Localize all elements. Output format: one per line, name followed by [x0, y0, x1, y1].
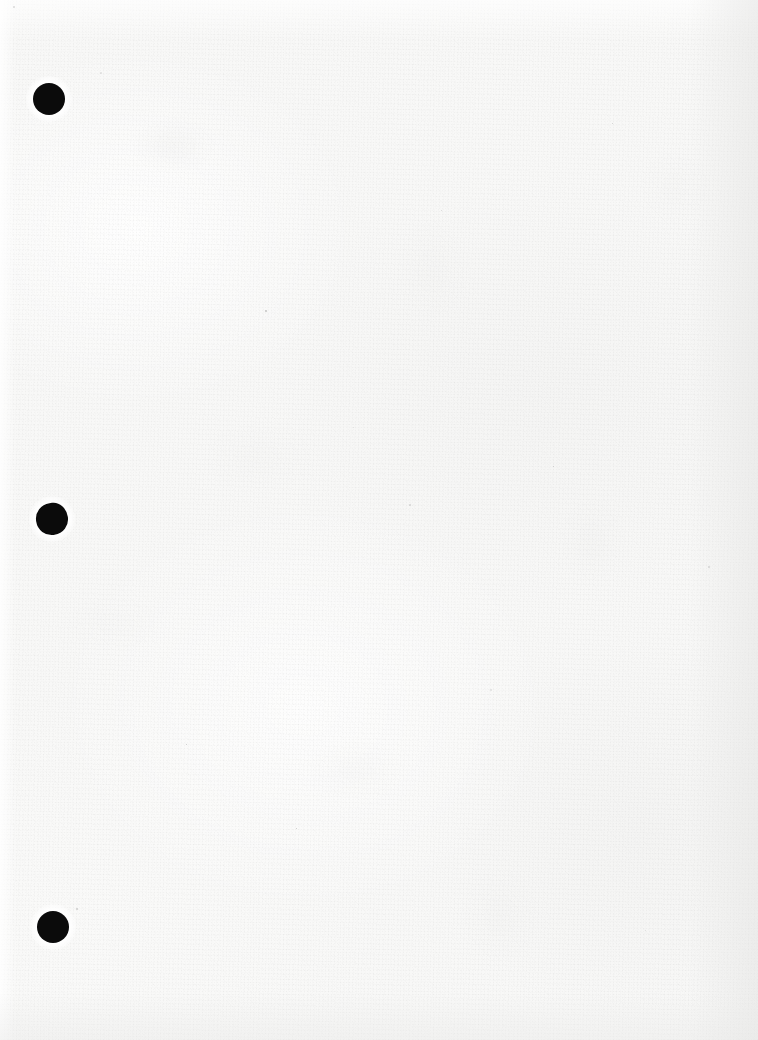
- punch-mark-bottom: [37, 911, 69, 943]
- scan-speck: [13, 6, 15, 8]
- scan-speck: [708, 566, 710, 568]
- scan-edge-bottom-shadow: [0, 992, 758, 1040]
- page-content: [90, 60, 690, 970]
- scanned-page: [0, 0, 758, 1040]
- punch-mark-top: [33, 83, 65, 115]
- scan-edge-right-shadow: [688, 0, 758, 1040]
- scan-edge-left-highlight: [0, 0, 16, 1040]
- scan-speck: [76, 908, 78, 910]
- scan-edge-top-highlight: [0, 0, 758, 40]
